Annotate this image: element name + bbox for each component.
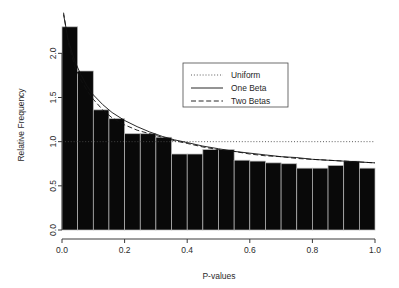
histogram-bar	[250, 161, 266, 230]
y-tick-label: 1.5	[48, 91, 58, 103]
y-axis-title: Relative Frequency	[16, 88, 26, 162]
legend: UniformOne BetaTwo Betas	[183, 63, 288, 107]
histogram-bar	[78, 71, 94, 230]
histogram-bar	[281, 164, 297, 230]
histogram-bar	[109, 119, 125, 230]
histogram-bar	[297, 168, 313, 230]
histogram-bar	[187, 154, 203, 230]
histogram-bar	[312, 168, 328, 230]
histogram-bar	[234, 160, 250, 230]
histogram-bar	[359, 168, 375, 230]
x-tick-label: 1.0	[369, 245, 381, 255]
y-tick-label: 2.0	[48, 47, 58, 59]
histogram-bar	[172, 154, 188, 230]
legend-label-uniform: Uniform	[231, 70, 260, 80]
histogram-bar	[140, 134, 156, 230]
chart-figure: 0.00.51.01.52.0 0.00.20.40.60.81.0 P-val…	[0, 0, 399, 288]
histogram-bar	[156, 137, 172, 230]
legend-label-one-beta: One Beta	[231, 83, 267, 93]
histogram-bar	[265, 163, 281, 230]
histogram-bar	[93, 110, 109, 230]
histogram-bar	[203, 150, 219, 230]
histogram-bar	[328, 166, 344, 230]
pvalue-histogram-chart: 0.00.51.01.52.0 0.00.20.40.60.81.0 P-val…	[0, 0, 399, 288]
legend-label-two-betas: Two Betas	[231, 96, 270, 106]
x-tick-label: 0.6	[244, 245, 256, 255]
histogram-bar	[62, 27, 78, 230]
x-tick-label: 0.2	[119, 245, 131, 255]
y-axis: 0.00.51.01.52.0	[48, 47, 62, 236]
y-tick-label: 0.5	[48, 180, 58, 192]
bars-group	[62, 27, 375, 230]
histogram-bar	[219, 150, 235, 230]
y-tick-label: 1.0	[48, 135, 58, 147]
x-axis-title: P-values	[202, 271, 235, 281]
x-tick-label: 0.4	[181, 245, 193, 255]
y-tick-label: 0.0	[48, 224, 58, 236]
x-tick-label: 0.8	[306, 245, 318, 255]
histogram-bar	[344, 161, 360, 230]
x-tick-label: 0.0	[56, 245, 68, 255]
x-axis: 0.00.20.40.60.81.0	[56, 239, 381, 255]
histogram-bar	[125, 134, 141, 230]
